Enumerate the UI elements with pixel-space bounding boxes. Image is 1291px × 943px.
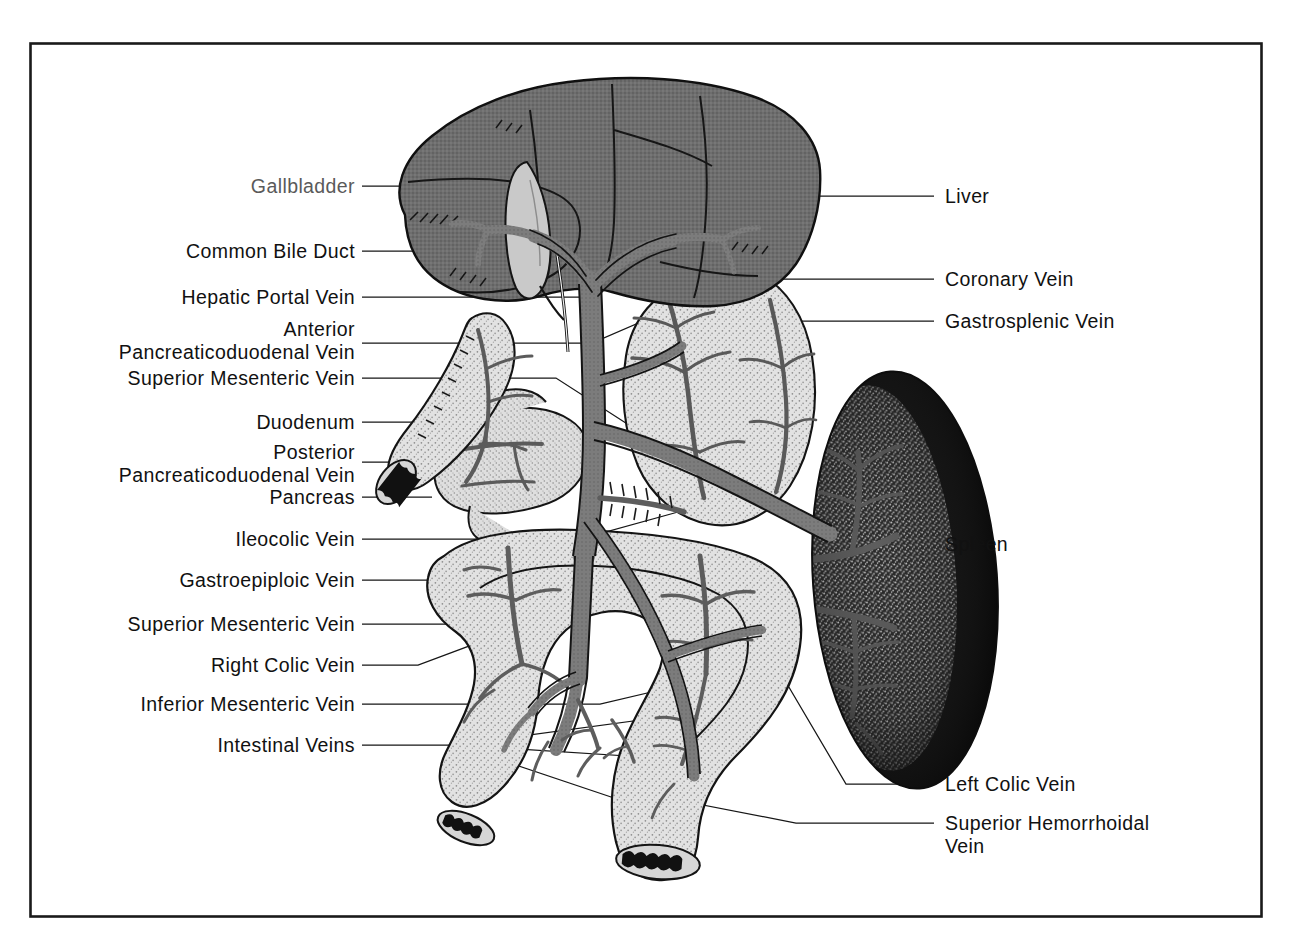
figure-page: Gallbladder Common Bile Duct Hepatic Por… [0, 0, 1291, 943]
label-superior-mesenteric-vein-lower[interactable]: Superior Mesenteric Vein [0, 613, 355, 636]
label-ileocolic-vein[interactable]: Ileocolic Vein [0, 528, 355, 551]
label-coronary-vein[interactable]: Coronary Vein [945, 268, 1275, 291]
label-gastroepiploic-vein[interactable]: Gastroepiploic Vein [0, 569, 355, 592]
label-pancreas[interactable]: Pancreas [0, 486, 355, 509]
label-gallbladder[interactable]: Gallbladder [0, 175, 355, 198]
label-common-bile-duct[interactable]: Common Bile Duct [0, 240, 355, 263]
label-inferior-mesenteric-vein[interactable]: Inferior Mesenteric Vein [0, 693, 355, 716]
label-right-colic-vein[interactable]: Right Colic Vein [0, 654, 355, 677]
label-liver[interactable]: Liver [945, 185, 1275, 208]
label-left-colic-vein[interactable]: Left Colic Vein [945, 773, 1275, 796]
label-superior-mesenteric-vein-upper[interactable]: Superior Mesenteric Vein [0, 367, 355, 390]
label-superior-hemorrhoidal-vein[interactable]: Superior Hemorrhoidal Vein [945, 812, 1275, 857]
label-anterior-pancreaticoduodenal-vein[interactable]: Anterior Pancreaticoduodenal Vein [0, 318, 355, 363]
label-spleen[interactable]: Spleen [945, 533, 1275, 556]
label-duodenum[interactable]: Duodenum [0, 411, 355, 434]
label-posterior-pancreaticoduodenal-vein[interactable]: Posterior Pancreaticoduodenal Vein [0, 441, 355, 486]
label-gastrosplenic-vein[interactable]: Gastrosplenic Vein [945, 310, 1275, 333]
label-intestinal-veins[interactable]: Intestinal Veins [0, 734, 355, 757]
label-hepatic-portal-vein[interactable]: Hepatic Portal Vein [0, 286, 355, 309]
